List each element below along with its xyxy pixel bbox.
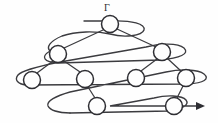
node-l2-d[interactable] [178, 70, 195, 87]
node-l2-b[interactable] [77, 71, 94, 88]
node-l3-b[interactable] [166, 98, 183, 115]
node-root[interactable] [102, 16, 119, 33]
edge-l1right-to-l2d [168, 59, 181, 71]
figure-canvas: Γ [0, 0, 218, 123]
node-l1-right[interactable] [154, 44, 171, 61]
node-l2-c[interactable] [128, 70, 145, 87]
edge-root-to-l1-right [117, 29, 156, 47]
graph-diagram-svg [0, 0, 218, 123]
node-l1-left[interactable] [50, 46, 67, 63]
edge-l2b-to-l3a [88, 87, 95, 98]
graph-label-gamma: Γ [104, 3, 110, 13]
node-l3-a[interactable] [89, 98, 106, 115]
node-l2-a[interactable] [24, 72, 41, 89]
graph-nodes [24, 16, 195, 115]
arrow-head-icon [196, 102, 205, 110]
